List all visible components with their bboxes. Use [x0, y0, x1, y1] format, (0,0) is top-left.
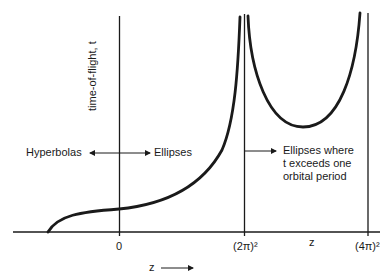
periodic-ellipses-label: Ellipses where t exceeds one orbital per…: [283, 144, 354, 183]
z-axis-label: z: [149, 261, 155, 274]
diagram-graphics: [0, 0, 389, 280]
y-axis-label: time-of-flight, t: [86, 41, 99, 111]
time-of-flight-curve-main: [48, 17, 240, 232]
z-inline-label: z: [309, 236, 315, 249]
ellipses-label: Ellipses: [154, 146, 192, 159]
time-of-flight-curve-periodic: [248, 13, 360, 127]
tick-label-2pi-squared: (2π)²: [233, 240, 258, 253]
tick-label-4pi-squared: (4π)²: [355, 240, 380, 253]
diagram-canvas: time-of-flight, t Hyperbolas Ellipses El…: [0, 0, 389, 280]
tick-label-zero: 0: [116, 240, 122, 253]
hyperbolas-label: Hyperbolas: [26, 146, 82, 159]
